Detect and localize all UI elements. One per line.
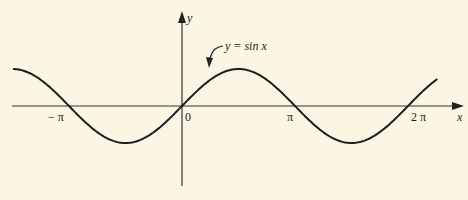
sine-graph: y y = sin x x − π 0 π 2 π bbox=[0, 0, 468, 200]
y-axis-arrow-icon bbox=[178, 11, 186, 23]
x-axis-label: x bbox=[456, 110, 463, 124]
tick-label-pi: π bbox=[287, 110, 293, 124]
x-axis-arrow-icon bbox=[452, 102, 464, 110]
tick-label-zero: 0 bbox=[185, 110, 191, 124]
annotation-leader bbox=[210, 46, 223, 59]
y-axis-label: y bbox=[186, 11, 193, 25]
tick-label-two-pi: 2 π bbox=[411, 110, 426, 124]
tick-label-neg-pi: − π bbox=[48, 110, 64, 124]
curve-label: y = sin x bbox=[224, 39, 267, 53]
annotation-arrow-icon bbox=[206, 57, 213, 68]
